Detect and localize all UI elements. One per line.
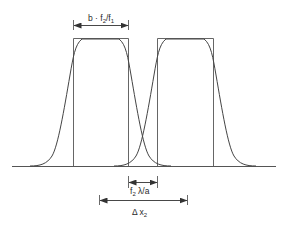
left-gaussian-edge-curve [30, 39, 171, 166]
shift-label: Δ x2 [132, 207, 148, 218]
right-rectangle [158, 39, 214, 167]
diagram-canvas: b · f2/f1 f2 λ/a Δ x2 [0, 0, 287, 226]
top-width-label: b · f2/f1 [88, 13, 115, 24]
left-rectangle [74, 39, 129, 167]
gap-label: f2 λ/a [130, 186, 150, 197]
